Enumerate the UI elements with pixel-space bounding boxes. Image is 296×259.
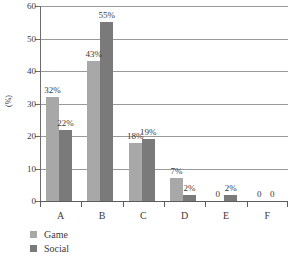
gridline (40, 71, 288, 72)
x-axis-category-label: D (165, 210, 205, 222)
bar-game-b (87, 61, 100, 201)
plot-area: 0102030405060 ABCDEF 32%22%43%55%18%19%7… (40, 6, 288, 201)
x-axis-tick (123, 202, 124, 207)
bar-value-label: 43% (74, 49, 114, 59)
x-axis-category-label: F (247, 210, 287, 222)
bar-value-label: 7% (157, 166, 197, 176)
gridline (40, 104, 288, 105)
legend-label-game: Game (44, 229, 68, 240)
legend-label-social: Social (44, 243, 69, 254)
bar-social-c (142, 139, 155, 201)
bar-chart: (%) 0102030405060 ABCDEF 32%22%43%55%18%… (0, 0, 296, 259)
x-axis-tick (40, 202, 41, 207)
y-axis-tick-label: 0 (6, 197, 36, 206)
legend-swatch-game (30, 231, 37, 238)
bar-social-a (59, 130, 72, 202)
bar-game-a (46, 97, 59, 201)
bar-value-label: 19% (128, 127, 168, 137)
bar-value-label: 32% (33, 85, 73, 95)
x-axis-tick (287, 202, 288, 207)
x-axis-category-label: B (82, 210, 122, 222)
y-axis-line (40, 6, 41, 202)
y-axis-tick-label: 60 (6, 2, 36, 11)
legend-item-social[interactable]: Social (30, 242, 69, 254)
y-axis-tick-label: 10 (6, 165, 36, 174)
y-axis-tick-label: 50 (6, 35, 36, 44)
bar-game-c (129, 143, 142, 202)
bar-value-label: 22% (46, 118, 86, 128)
y-axis-tick-label: 40 (6, 67, 36, 76)
x-axis-tick (81, 202, 82, 207)
y-axis-tick-label: 20 (6, 132, 36, 141)
chart-legend: Game Social (30, 228, 69, 256)
x-axis-category-label: E (206, 210, 246, 222)
x-axis-tick (205, 202, 206, 207)
legend-item-game[interactable]: Game (30, 228, 69, 240)
x-axis-tick (247, 202, 248, 207)
bar-value-label: 0 (252, 189, 292, 199)
gridline (40, 6, 288, 7)
bar-value-label: 55% (87, 10, 127, 20)
x-axis-tick (164, 202, 165, 207)
legend-swatch-social (30, 245, 37, 252)
x-axis-category-label: A (41, 210, 81, 222)
bar-social-d (183, 195, 196, 202)
x-axis-category-label: C (123, 210, 163, 222)
y-axis-tick-label: 30 (6, 100, 36, 109)
gridline (40, 39, 288, 40)
